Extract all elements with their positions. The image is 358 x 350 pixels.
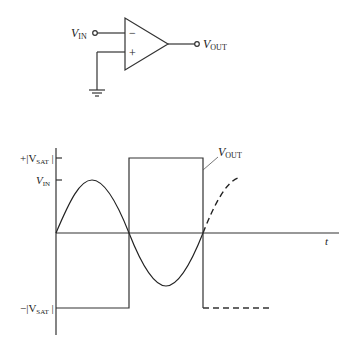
input-label: VIN xyxy=(71,26,87,41)
input-terminal-icon xyxy=(93,31,98,36)
label-vin: VIN xyxy=(36,174,50,188)
label-pos-sat: +|VSAT | xyxy=(20,152,54,166)
ground-icon xyxy=(89,90,105,96)
opamp-circuit xyxy=(89,18,199,96)
inverting-sign: − xyxy=(129,26,136,40)
label-t: t xyxy=(325,235,329,247)
axes xyxy=(56,148,339,335)
noninverting-sign: + xyxy=(129,46,136,60)
vout-curve-label: VOUT xyxy=(218,145,242,160)
label-neg-sat: −|VSAT | xyxy=(20,302,54,316)
diagram: − + VIN VOUT +|VSAT | VIN −|VSAT | t VOU… xyxy=(0,0,358,350)
output-terminal-icon xyxy=(195,42,200,47)
vout-leader xyxy=(203,157,218,170)
output-label: VOUT xyxy=(203,37,227,52)
vin-sine-dashed xyxy=(203,178,238,233)
